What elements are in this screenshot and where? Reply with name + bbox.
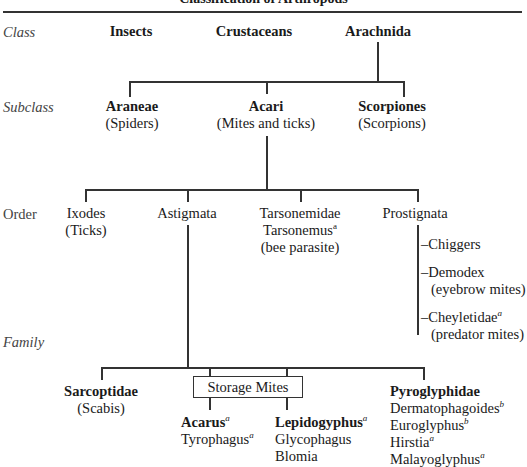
connector-line [209, 398, 211, 410]
connector-line [129, 81, 131, 97]
subclass-common-name: (Scorpions) [358, 115, 426, 131]
family-common-name: (Scabis) [77, 400, 125, 416]
level-label-order: Order [3, 206, 37, 222]
family-name: Pyroglyphidae [390, 383, 480, 399]
footnote-marker: a [225, 413, 230, 423]
subclass-common-name: (Spiders) [105, 115, 158, 131]
footnote-marker: a [249, 430, 254, 440]
order-common-name: (Ticks) [65, 222, 106, 238]
genus-malayoglyphus: Malayoglyphusa [390, 451, 485, 467]
order-name: Ixodes [67, 205, 106, 221]
footnote-marker: a [429, 433, 434, 443]
connector-line [187, 189, 189, 202]
prostignata-member-cheyletidae: –Cheyletidaea [421, 309, 502, 325]
footnote-marker: a [333, 221, 337, 231]
level-label-family: Family [3, 334, 44, 350]
prostignata-member-demodex-common: (eyebrow mites) [431, 281, 526, 297]
title-rule [3, 11, 522, 13]
connector-line [266, 136, 268, 189]
order-name: Prostignata [382, 205, 447, 221]
family-name: Sarcoptidae [64, 383, 138, 399]
connector-line [300, 189, 302, 202]
footnote-marker: a [480, 450, 485, 460]
connector-line [403, 81, 405, 97]
order-common-name: (bee parasite) [261, 239, 340, 255]
footnote-marker: b [464, 416, 469, 426]
genus-lepidogyphus: Lepidogyphusa [275, 414, 367, 430]
genus-tyrophagus: Tyrophagusa [181, 431, 254, 447]
connector-line [266, 81, 268, 94]
genus-blomia: Blomia [275, 448, 318, 464]
connector-line [101, 367, 103, 380]
prostignata-member-chiggers: –Chiggers [421, 236, 481, 252]
diagram-title: Classification of Arthropods [0, 0, 527, 7]
connector-line [377, 42, 379, 82]
level-label-subclass: Subclass [3, 99, 54, 115]
subclass-name: Araneae [106, 98, 158, 114]
prostignata-member-cheyletidae-common: (predator mites) [431, 326, 524, 342]
order-name: Astigmata [157, 205, 217, 221]
order-genus: Tarsonemusa [263, 222, 337, 238]
genus-acarus: Acarusa [181, 414, 230, 430]
connector-line [187, 225, 189, 368]
genus-hirstia: Hirstiaa [390, 434, 434, 450]
connector-line [85, 189, 87, 202]
subclass-common-name: (Mites and ticks) [217, 115, 315, 131]
subclass-name: Scorpiones [358, 98, 426, 114]
footnote-marker: a [498, 308, 503, 318]
prostignata-member-demodex: –Demodex [421, 264, 485, 280]
genus-euroglyphus: Euroglyphusb [390, 417, 469, 433]
connector-line [417, 225, 419, 335]
connector-line [101, 367, 424, 369]
footnote-marker: a [363, 413, 368, 423]
genus-glycophagus: Glycophagus [275, 431, 352, 447]
storage-mites-label: Storage Mites [208, 379, 289, 396]
connector-line [286, 398, 288, 410]
order-name: Tarsonemidae [259, 205, 340, 221]
connector-line [85, 189, 418, 191]
class-arachnida: Arachnida [345, 23, 411, 39]
connector-line [423, 367, 425, 380]
subclass-name: Acari [249, 98, 284, 114]
storage-mites-box: Storage Mites [193, 376, 303, 398]
class-insects: Insects [110, 23, 153, 39]
genus-dermatophagoides: Dermatophagoidesb [390, 400, 504, 416]
connector-line [417, 189, 419, 202]
class-crustaceans: Crustaceans [216, 23, 293, 39]
footnote-marker: b [500, 399, 505, 409]
level-label-class: Class [3, 24, 35, 40]
